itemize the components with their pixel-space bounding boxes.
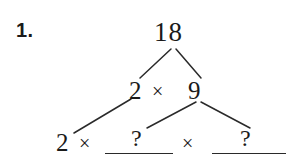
bottom-blank-2-answer-line[interactable] bbox=[212, 153, 286, 154]
branch-root-to-left-factor bbox=[140, 49, 171, 78]
factor-tree-root-value: 18 bbox=[154, 19, 183, 46]
problem-number-label: 1. bbox=[16, 20, 34, 40]
bottom-blank-1-answer-line[interactable] bbox=[105, 153, 173, 154]
branch-right-factor-to-blank-one bbox=[147, 102, 196, 128]
branch-left-factor-to-bottom-factor bbox=[74, 99, 131, 133]
middle-right-factor: 9 bbox=[188, 78, 201, 103]
bottom-first-factor: 2 bbox=[56, 130, 69, 155]
bottom-blank-1-question-mark: ? bbox=[131, 126, 142, 150]
bottom-multiplication-symbol-1: × bbox=[79, 133, 90, 153]
bottom-blank-2-question-mark: ? bbox=[240, 126, 251, 150]
branch-root-to-right-factor bbox=[176, 49, 201, 78]
middle-multiplication-symbol: × bbox=[152, 81, 163, 101]
factor-tree-worksheet-problem: 1. 18 2 × 9 2 × ? × ? bbox=[0, 0, 289, 162]
middle-left-factor: 2 bbox=[129, 78, 142, 103]
bottom-multiplication-symbol-2: × bbox=[182, 133, 193, 153]
